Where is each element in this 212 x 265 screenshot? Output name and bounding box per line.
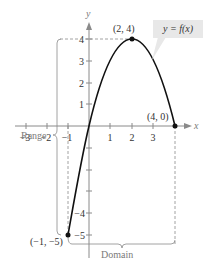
y-tick-label: −5 xyxy=(74,230,85,241)
y-axis-label: y xyxy=(85,8,91,19)
x-tick-label: 1 xyxy=(108,132,113,143)
point-end xyxy=(173,124,178,129)
y-tick-label: 4 xyxy=(79,34,84,45)
point-label-max: (2, 4) xyxy=(113,23,135,35)
x-axis-label: x xyxy=(193,120,199,131)
y-tick-label: 2 xyxy=(79,78,84,89)
y-tick-label: −4 xyxy=(74,208,85,219)
point-max xyxy=(130,37,135,42)
label-pointer xyxy=(152,37,166,60)
domain-label: Domain xyxy=(101,249,133,260)
function-graph: x y −3 −2 −1 1 2 3 1 2 3 4 −4 −5 xyxy=(0,0,212,265)
function-curve xyxy=(68,39,175,235)
y-tick-label: 3 xyxy=(79,56,84,67)
range-label: Range xyxy=(21,130,47,141)
y-tick-label: 1 xyxy=(79,99,84,110)
point-label-start: (−1, −5) xyxy=(30,236,63,248)
y-axis-arrow-icon xyxy=(86,22,92,30)
function-label: y = f(x) xyxy=(162,23,194,35)
range-bracket xyxy=(53,39,61,235)
x-tick-label: −1 xyxy=(62,132,73,143)
x-axis-arrow-icon xyxy=(184,123,192,129)
x-tick-label: 3 xyxy=(151,132,156,143)
point-label-end: (4, 0) xyxy=(147,111,169,123)
x-tick-label: 2 xyxy=(130,132,135,143)
point-start xyxy=(66,233,71,238)
